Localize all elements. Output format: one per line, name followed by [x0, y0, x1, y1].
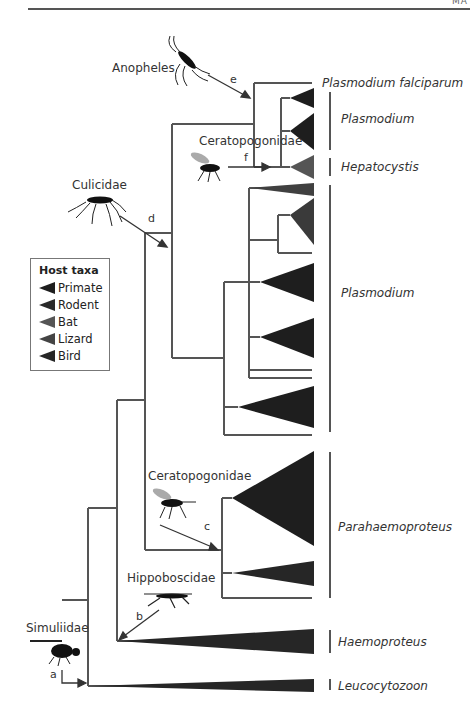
- vector-label-anopheles: Anopheles: [112, 61, 175, 75]
- taxon-leucocytozoon: Leucocytozoon: [338, 679, 428, 693]
- vector-label-hippoboscidae: Hippoboscidae: [127, 571, 215, 585]
- legend-item-lizard: Lizard: [39, 330, 109, 347]
- arrow-letters: e f d c b a: [50, 73, 249, 681]
- svg-text:b: b: [136, 610, 143, 623]
- legend-label: Lizard: [58, 332, 93, 346]
- vector-label-simuliidae: Simuliidae: [26, 621, 89, 635]
- simuliidae-blackfly-icon: [30, 641, 80, 666]
- hippoboscidae-fly-icon: [144, 594, 192, 609]
- legend-item-bat: Bat: [39, 313, 109, 330]
- rodent-triangle-icon: [39, 299, 55, 311]
- taxon-plasmodium-falciparum: Plasmodium falciparum: [322, 76, 463, 90]
- ceratopogonidae-midge-icon-lower: [151, 486, 196, 519]
- taxon-parahaemoproteus: Parahaemoproteus: [338, 520, 452, 534]
- taxon-hepatocystis: Hepatocystis: [341, 160, 419, 174]
- taxon-haemoproteus: Haemoproteus: [338, 635, 427, 649]
- bat-triangle-icon: [39, 316, 55, 328]
- host-taxa-legend: Host taxa Primate Rodent Bat Lizard Bird: [30, 258, 110, 371]
- legend-title: Host taxa: [39, 264, 109, 277]
- ceratopogonidae-midge-icon-top: [189, 150, 220, 182]
- taxon-plasmodium-top: Plasmodium: [341, 112, 414, 126]
- anopheles-icon: [169, 36, 210, 86]
- legend-label: Rodent: [58, 298, 99, 312]
- svg-text:c: c: [204, 520, 210, 533]
- svg-text:e: e: [230, 73, 237, 86]
- legend-label: Bird: [58, 349, 81, 363]
- taxon-plasmodium-mid: Plasmodium: [341, 286, 414, 300]
- primate-triangle-icon: [39, 282, 55, 294]
- legend-item-primate: Primate: [39, 279, 109, 296]
- svg-text:a: a: [50, 668, 57, 681]
- lizard-triangle-icon: [39, 333, 55, 345]
- legend-item-rodent: Rodent: [39, 296, 109, 313]
- vector-label-ceratopogonidae-c: Ceratopogonidae: [148, 469, 251, 483]
- vector-label-ceratopogonidae-f: Ceratopogonidae: [199, 134, 302, 148]
- legend-label: Primate: [58, 281, 103, 295]
- bird-triangle-icon: [39, 350, 55, 362]
- vector-label-culicidae: Culicidae: [72, 178, 127, 192]
- legend-item-bird: Bird: [39, 347, 109, 364]
- legend-label: Bat: [58, 315, 77, 329]
- culicidae-mosquito-icon: [68, 197, 126, 227]
- svg-text:d: d: [148, 212, 155, 225]
- svg-text:f: f: [244, 151, 249, 164]
